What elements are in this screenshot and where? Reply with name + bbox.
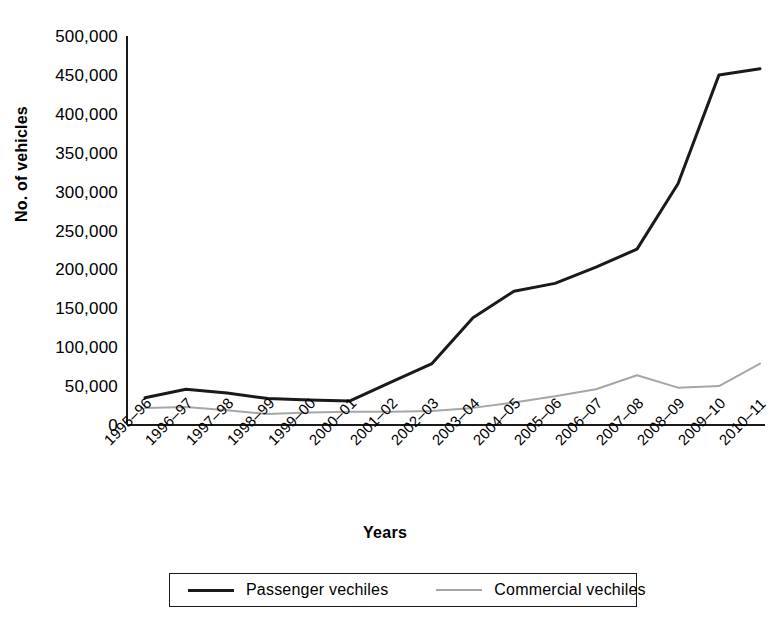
plot-area xyxy=(126,30,766,430)
x-axis-title: Years xyxy=(0,524,770,542)
y-tick-label: 200,000 xyxy=(0,261,118,278)
legend-line-swatch-passenger xyxy=(188,589,234,592)
y-axis-tick-labels: 050,000100,000150,000200,000250,000300,0… xyxy=(0,0,118,440)
legend-item-passenger: Passenger vechiles xyxy=(188,581,388,599)
y-tick-label: 450,000 xyxy=(0,67,118,84)
series-line-passenger xyxy=(145,69,760,401)
y-tick-label: 350,000 xyxy=(0,145,118,162)
line-chart: No. of vehicles 050,000100,000150,000200… xyxy=(0,0,770,631)
y-tick-label: 100,000 xyxy=(0,339,118,356)
chart-legend: Passenger vechiles Commercial vechiles xyxy=(169,573,637,607)
y-tick-label: 400,000 xyxy=(0,106,118,123)
y-tick-label: 50,000 xyxy=(0,378,118,395)
y-tick-label: 150,000 xyxy=(0,300,118,317)
x-axis-tick-labels: 1995–961996–971997–981998–991999–002000–… xyxy=(0,425,770,535)
legend-label-commercial: Commercial vechiles xyxy=(494,581,645,599)
data-series-layer xyxy=(145,69,760,414)
y-tick-label: 250,000 xyxy=(0,223,118,240)
legend-item-commercial: Commercial vechiles xyxy=(436,581,645,599)
y-tick-label: 300,000 xyxy=(0,184,118,201)
y-tick-label: 500,000 xyxy=(0,28,118,45)
legend-label-passenger: Passenger vechiles xyxy=(246,581,388,599)
legend-line-swatch-commercial xyxy=(436,589,482,591)
axis-lines xyxy=(127,36,765,425)
plot-svg xyxy=(126,30,766,430)
